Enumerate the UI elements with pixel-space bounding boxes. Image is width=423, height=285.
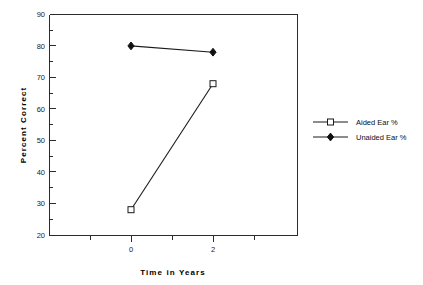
x-tick-label-2: 2 [211,245,215,254]
open-square-marker [328,119,334,125]
y-tick-label-90: 90 [37,10,45,19]
legend-label-unaided-ear: Unaided Ear % [356,133,407,142]
y-tick-label-20: 20 [37,231,45,240]
line-chart-figure: 90 80 70 60 50 40 30 20 0 2 Time in Year… [0,0,423,285]
x-axis-title: Time in Years [140,268,206,277]
data-point-aided-2 [210,81,216,87]
y-tick-label-60: 60 [37,105,45,114]
legend-label-aided-ear: Aided Ear % [356,118,398,127]
chart-svg: 90 80 70 60 50 40 30 20 0 2 Time in Year… [0,0,423,285]
y-tick-label-40: 40 [37,168,45,177]
x-tick-label-0: 0 [129,245,133,254]
y-axis-title: Percent Correct [19,87,28,164]
chart-background [0,0,423,285]
y-tick-label-50: 50 [37,136,45,145]
data-point-aided-0 [128,207,134,213]
y-tick-label-80: 80 [37,42,45,51]
y-tick-label-30: 30 [37,199,45,208]
y-tick-label-70: 70 [37,73,45,82]
